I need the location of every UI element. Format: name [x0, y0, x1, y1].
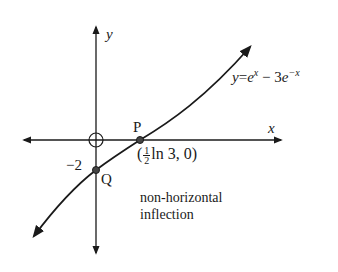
point-q-label: Q: [101, 172, 112, 187]
equation-label: y=ex − 3e−x: [232, 68, 300, 85]
coord-open: (: [137, 145, 142, 162]
inflection-note-line2: inflection: [140, 208, 194, 222]
equation-lhs: y: [232, 69, 239, 85]
y-axis-label: y: [106, 27, 113, 42]
inflection-note-line1: non-horizontal: [140, 191, 222, 205]
equation-minus: − 3: [258, 69, 281, 85]
point-q-marker: [93, 167, 100, 174]
fraction-half: 12: [143, 146, 150, 165]
x-axis-label: x: [268, 121, 275, 136]
point-p-label: P: [133, 120, 141, 135]
point-p-marker: [137, 137, 144, 144]
y-intercept-label: −2: [66, 158, 82, 173]
equation-eq: =: [239, 69, 247, 85]
equation-e1: e: [247, 69, 254, 85]
graph-canvas: [0, 0, 338, 272]
equation-exp2: −x: [288, 67, 299, 78]
coord-rest: ln 3, 0): [151, 145, 197, 162]
point-p-coordinate: (12ln 3, 0): [137, 146, 197, 165]
